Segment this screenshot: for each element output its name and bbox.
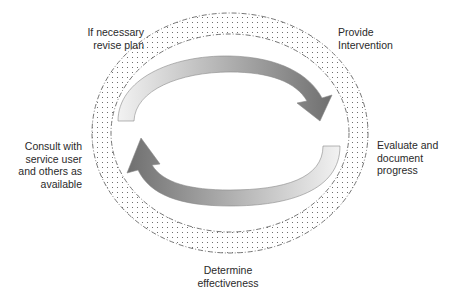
label-revise-plan: If necessary revise plan	[60, 26, 144, 51]
arrow-top-clockwise-icon	[118, 56, 332, 121]
label-consult-service-user: Consult with service user and others as …	[10, 140, 82, 190]
arrow-bottom-clockwise-icon	[127, 138, 340, 206]
label-provide-intervention: Provide Intervention	[338, 26, 438, 51]
label-determine-effectiveness: Determine effectiveness	[180, 264, 276, 289]
label-evaluate-progress: Evaluate and document progress	[377, 139, 453, 177]
